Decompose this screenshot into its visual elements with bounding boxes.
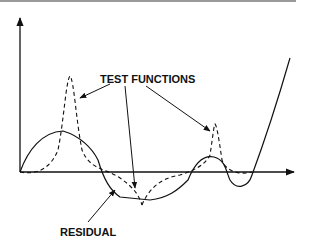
arrow-test-right	[146, 86, 210, 131]
residual-label: RESIDUAL	[60, 226, 116, 238]
arrow-test-mid	[125, 86, 135, 188]
test-functions-label: TEST FUNCTIONS	[100, 73, 195, 85]
residual-diagram	[0, 0, 310, 246]
arrow-test-left	[80, 84, 110, 98]
arrow-residual	[88, 190, 115, 222]
